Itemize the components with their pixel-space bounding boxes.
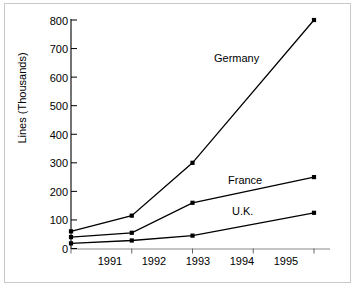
- data-point: [312, 18, 316, 22]
- series-line: [71, 20, 314, 231]
- data-point: [130, 238, 134, 242]
- axis-lines: [71, 19, 330, 249]
- data-point: [312, 175, 316, 179]
- series-uk: [69, 211, 316, 246]
- data-point: [69, 235, 73, 239]
- series-france: [69, 175, 316, 239]
- data-point: [69, 229, 73, 233]
- series-layer: [69, 18, 316, 246]
- data-point: [190, 201, 194, 205]
- data-point: [69, 241, 73, 245]
- series-line: [71, 213, 314, 244]
- data-point: [190, 234, 194, 238]
- series-line: [71, 177, 314, 237]
- data-point: [130, 214, 134, 218]
- line-chart: Lines (Thousands) 800 700 600 500 400 30…: [0, 0, 357, 289]
- chart-canvas: [0, 0, 357, 289]
- data-point: [312, 211, 316, 215]
- data-point: [130, 231, 134, 235]
- data-point: [190, 161, 194, 165]
- y-axis-ticks: [71, 20, 77, 249]
